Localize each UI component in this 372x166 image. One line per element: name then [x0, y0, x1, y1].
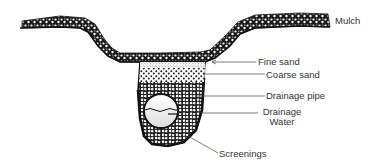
label-mulch: Mulch	[335, 16, 360, 26]
label-drainage-water: Drainage Water	[258, 107, 306, 127]
label-fine-sand: Fine sand	[258, 57, 300, 67]
screenings-leader	[188, 136, 218, 153]
label-screenings: Screenings	[219, 149, 267, 159]
label-coarse-sand: Coarse sand	[266, 70, 320, 80]
coarse-sand-layer	[139, 68, 205, 82]
mulch-layer	[22, 13, 330, 62]
fine-sand-layer	[140, 62, 205, 68]
label-drainage-pipe: Drainage pipe	[266, 91, 325, 101]
label-drainage-water-line2: Water	[258, 117, 306, 127]
drainage-trench-diagram	[0, 0, 372, 166]
